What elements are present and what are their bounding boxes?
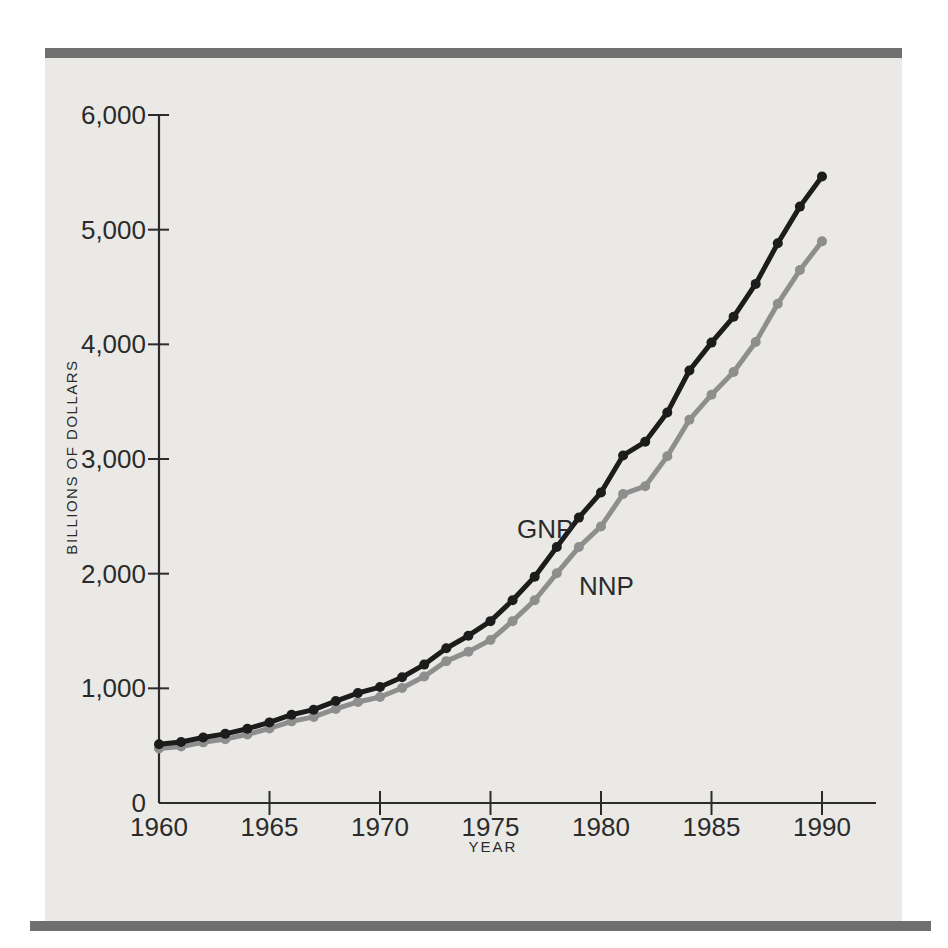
gnp-point	[331, 696, 341, 706]
nnp-point	[375, 692, 385, 702]
nnp-point	[508, 616, 518, 626]
nnp-point	[574, 542, 584, 552]
gnp-point	[353, 688, 363, 698]
gnp-point	[596, 487, 606, 497]
gnp-point	[441, 643, 451, 653]
gnp-point	[154, 739, 164, 749]
gnp-point	[574, 513, 584, 523]
x-tick-label: 1965	[241, 812, 299, 842]
gnp-line	[159, 177, 822, 745]
gnp-series	[154, 172, 827, 750]
y-axis-title: BILLIONS OF DOLLARS	[63, 347, 81, 567]
series-label-nnp: NNP	[579, 571, 634, 601]
gnp-point	[817, 172, 827, 182]
nnp-point	[773, 299, 783, 309]
nnp-point	[817, 236, 827, 246]
x-tick-label: 1990	[793, 812, 851, 842]
gnp-point	[618, 450, 628, 460]
nnp-point	[618, 489, 628, 499]
gnp-point	[773, 238, 783, 248]
gnp-point	[265, 717, 275, 727]
nnp-point	[530, 595, 540, 605]
gnp-point	[176, 737, 186, 747]
y-tick-label: 1,000	[81, 673, 146, 703]
y-tick-label: 6,000	[81, 100, 146, 130]
gnp-point	[729, 312, 739, 322]
nnp-point	[552, 568, 562, 578]
nnp-point	[441, 656, 451, 666]
gnp-point	[684, 365, 694, 375]
x-tick-label: 1960	[130, 812, 188, 842]
gnp-point	[220, 729, 230, 739]
nnp-point	[684, 415, 694, 425]
gnp-point	[397, 672, 407, 682]
series-label-gnp: GNP	[517, 514, 573, 544]
nnp-series	[154, 236, 827, 753]
gnp-point	[751, 279, 761, 289]
nnp-point	[397, 683, 407, 693]
gnp-point	[309, 705, 319, 715]
nnp-point	[419, 672, 429, 682]
nnp-point	[353, 697, 363, 707]
nnp-point	[751, 337, 761, 347]
x-axis-title: YEAR	[433, 838, 553, 855]
x-tick-label: 1985	[683, 812, 741, 842]
x-tick-label: 1980	[572, 812, 630, 842]
gnp-point	[662, 408, 672, 418]
nnp-point	[486, 635, 496, 645]
nnp-point	[795, 265, 805, 275]
gnp-point	[463, 631, 473, 641]
gnp-point	[640, 437, 650, 447]
y-tick-label: 3,000	[81, 444, 146, 474]
gnp-point	[419, 660, 429, 670]
y-tick-label: 4,000	[81, 329, 146, 359]
gnp-point	[508, 595, 518, 605]
gnp-point	[242, 724, 252, 734]
gnp-point	[198, 732, 208, 742]
gnp-point	[375, 682, 385, 692]
gnp-point	[707, 338, 717, 348]
nnp-point	[463, 647, 473, 657]
y-tick-label: 2,000	[81, 559, 146, 589]
x-tick-label: 1970	[351, 812, 409, 842]
nnp-point	[729, 367, 739, 377]
gnp-point	[486, 616, 496, 626]
gnp-point	[530, 572, 540, 582]
gnp-point	[795, 202, 805, 212]
scanned-page: 01,0002,0003,0004,0005,0006,000196019651…	[0, 0, 948, 948]
gnp-point	[287, 710, 297, 720]
nnp-point	[596, 521, 606, 531]
gnp-nnp-line-chart: 01,0002,0003,0004,0005,0006,000196019651…	[0, 0, 948, 948]
y-tick-label: 5,000	[81, 215, 146, 245]
nnp-point	[707, 390, 717, 400]
nnp-line	[159, 241, 822, 748]
nnp-point	[640, 481, 650, 491]
nnp-point	[662, 451, 672, 461]
